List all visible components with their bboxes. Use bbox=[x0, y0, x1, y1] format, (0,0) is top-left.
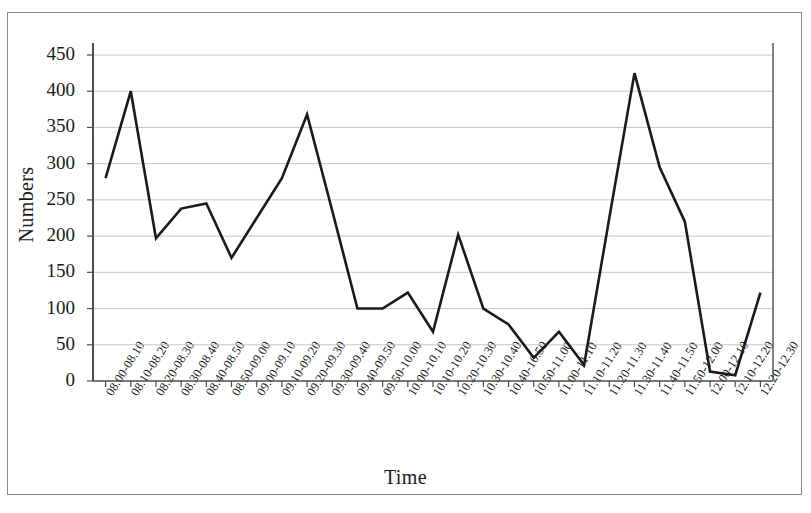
gridlines-group bbox=[93, 55, 773, 345]
figure-container: Numbers Time 050100150200250300350400450… bbox=[0, 0, 811, 513]
line-chart-plot bbox=[0, 0, 811, 513]
data-series-line bbox=[106, 73, 761, 375]
x-tick-marks-group bbox=[106, 381, 761, 387]
